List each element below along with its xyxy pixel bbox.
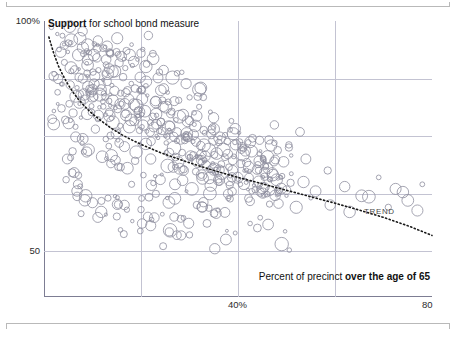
x-tick-label: 40% xyxy=(228,299,247,310)
top-rule-right-cap xyxy=(449,2,450,7)
trend-line xyxy=(44,21,432,297)
chart-title: Support for school bond measure xyxy=(48,18,199,29)
chart-title-bold: Support xyxy=(48,18,86,29)
bottom-rule-left-cap xyxy=(6,323,7,329)
bottom-divider-rule xyxy=(6,323,450,324)
y-tick-label: 100% xyxy=(16,15,40,26)
chart-title-rest: for school bond measure xyxy=(86,18,199,29)
plot-area: Support for school bond measure Percent … xyxy=(44,21,432,297)
trend-annotation: TREND xyxy=(364,207,395,216)
x-axis-label-bold: over the age of 65 xyxy=(345,271,430,282)
x-tick-label: 80 xyxy=(422,299,433,310)
top-rule-left-cap xyxy=(6,2,7,7)
bottom-rule-right-cap xyxy=(449,323,450,329)
x-axis-label-plain: Percent of precinct xyxy=(259,271,345,282)
chart-root: Support for school bond measure Percent … xyxy=(0,0,456,338)
top-divider-rule xyxy=(6,6,450,7)
x-axis-label: Percent of precinct over the age of 65 xyxy=(259,271,430,282)
y-tick-label: 50 xyxy=(29,245,40,256)
